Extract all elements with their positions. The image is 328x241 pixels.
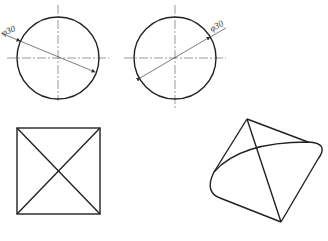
diameter-label: φ30 — [0, 23, 17, 38]
edge-center — [247, 119, 281, 222]
circle-right-group: φ30 — [124, 5, 226, 108]
edge-top-right — [247, 119, 308, 142]
square-group — [17, 128, 100, 214]
diameter-label: φ30 — [208, 18, 226, 34]
edge-top-left — [214, 119, 247, 172]
curved-shape-group — [210, 119, 322, 222]
edge-bottom-left — [220, 198, 281, 222]
edge-bottom-right — [281, 159, 318, 222]
diameter-dimension-line — [20, 41, 95, 72]
technical-drawing: φ30 φ30 — [0, 0, 328, 241]
lower-left-curve — [210, 172, 220, 198]
circle-left-group: φ30 — [0, 5, 109, 101]
